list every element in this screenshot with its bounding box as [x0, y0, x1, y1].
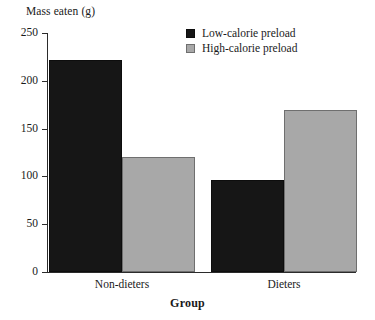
x-axis-title: Group	[0, 296, 375, 311]
x-axis-line	[47, 272, 356, 273]
x-axis-category-label: Non-dieters	[52, 278, 192, 290]
legend-swatch-icon	[186, 29, 195, 38]
y-axis-tick-mark	[42, 176, 47, 177]
legend-label: Low-calorie preload	[202, 28, 296, 40]
y-axis-tick-mark	[42, 224, 47, 225]
bar-chart: Mass eaten (g) 050100150200250 Non-diete…	[0, 0, 375, 320]
bar-dieters-high-calorie-preload	[284, 110, 357, 272]
y-axis-line	[47, 33, 48, 273]
y-axis-tick-mark	[42, 33, 47, 34]
y-axis-tick-label: 200	[21, 75, 38, 87]
y-axis-tick-label: 150	[21, 123, 38, 135]
y-axis-tick-label: 100	[21, 170, 38, 182]
y-axis-tick-mark	[42, 81, 47, 82]
y-axis-tick-label: 250	[21, 27, 38, 39]
y-axis-tick-mark	[42, 272, 47, 273]
legend-swatch-icon	[186, 44, 195, 53]
y-axis-title: Mass eaten (g)	[26, 5, 95, 17]
legend-item: Low-calorie preload	[186, 26, 297, 41]
x-axis-category-label: Dieters	[214, 278, 354, 290]
y-axis-tick-label: 0	[32, 266, 38, 278]
y-axis-tick-mark	[42, 129, 47, 130]
bar-dieters-low-calorie-preload	[211, 180, 284, 272]
bar-non-dieters-high-calorie-preload	[122, 157, 195, 272]
bar-non-dieters-low-calorie-preload	[49, 60, 122, 272]
legend-item: High-calorie preload	[186, 41, 297, 56]
legend-label: High-calorie preload	[202, 43, 297, 55]
chart-legend: Low-calorie preloadHigh-calorie preload	[186, 26, 297, 56]
y-axis-tick-label: 50	[27, 218, 39, 230]
